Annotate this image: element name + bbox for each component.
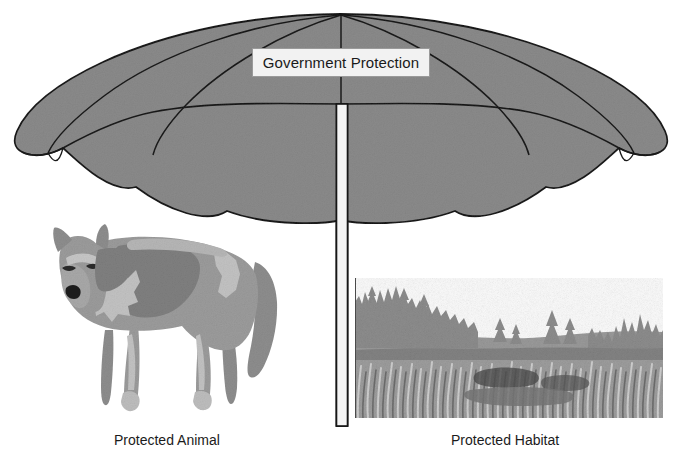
habitat-photo — [355, 278, 663, 418]
protected-habitat-caption: Protected Habitat — [451, 432, 559, 448]
wolf-front-leg-far — [101, 330, 113, 405]
habitat-shrub-clump-left — [474, 368, 539, 388]
protected-animal-caption: Protected Animal — [114, 432, 220, 448]
wolf-front-paw-near — [121, 391, 140, 411]
umbrella-pole-foreground — [337, 104, 348, 426]
government-protection-label-text: Government Protection — [263, 54, 419, 71]
government-protection-label: Government Protection — [252, 48, 430, 77]
wolf-illustration — [53, 224, 277, 411]
figure-canvas: Government Protection Protected Animal P… — [0, 0, 683, 467]
wolf-hind-paw-near — [193, 391, 212, 410]
